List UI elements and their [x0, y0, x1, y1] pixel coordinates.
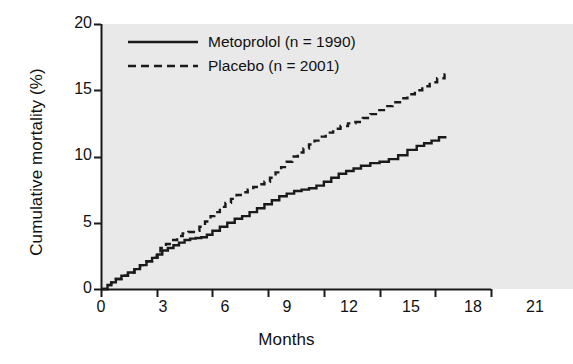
- y-tick-label-0: 0: [52, 279, 92, 297]
- legend-label-placebo: Placebo (n = 2001): [208, 57, 339, 75]
- y-tick-label-5: 5: [52, 213, 92, 231]
- x-tick-label-0: 0: [81, 298, 121, 316]
- x-tick-label-9: 9: [267, 298, 307, 316]
- x-tick-label-6: 6: [205, 298, 245, 316]
- y-tick-label-10: 10: [52, 146, 92, 164]
- y-axis-ticks: [94, 25, 101, 290]
- x-tick-label-21: 21: [515, 298, 555, 316]
- x-tick-label-3: 3: [143, 298, 183, 316]
- legend-label-metoprolol: Metoprolol (n = 1990): [208, 33, 356, 51]
- x-tick-label-15: 15: [391, 298, 431, 316]
- y-tick-label-20: 20: [52, 14, 92, 32]
- y-axis-title: Cumulative mortality (%): [27, 37, 47, 287]
- cumulative-mortality-chart: Cumulative mortality (%) Months 20 15 10…: [0, 0, 573, 364]
- y-tick-label-15: 15: [52, 80, 92, 98]
- x-tick-label-12: 12: [329, 298, 369, 316]
- x-axis-title: Months: [0, 330, 573, 350]
- x-tick-label-18: 18: [453, 298, 493, 316]
